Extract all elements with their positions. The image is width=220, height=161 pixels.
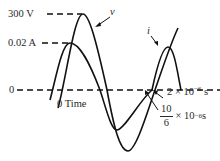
i-arrowhead-icon bbox=[154, 41, 158, 46]
time-marker-10-6-us: 10 6 × 10−6 s bbox=[160, 104, 206, 128]
voltage-curve-label: v bbox=[110, 7, 115, 18]
zero-label: 0 bbox=[9, 85, 14, 96]
v-arrowhead-icon bbox=[95, 22, 101, 27]
waveform-diagram bbox=[0, 0, 220, 161]
time-origin-label: 0 Time bbox=[57, 99, 86, 110]
time-marker-2us: 2 × 10−6 s bbox=[167, 87, 208, 98]
t2-marker-arrow bbox=[146, 92, 158, 110]
current-peak-label: 0.02 A bbox=[8, 38, 36, 49]
current-curve-label: i bbox=[147, 26, 150, 37]
voltage-peak-label: 300 V bbox=[8, 9, 34, 20]
fraction-10-over-6: 10 6 bbox=[160, 104, 173, 128]
